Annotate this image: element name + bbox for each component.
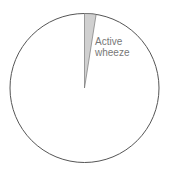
slice-label: Active wheeze	[95, 36, 129, 58]
pie-chart	[0, 0, 170, 175]
slice-label-line1: Active	[95, 36, 129, 47]
slice-label-line2: wheeze	[95, 47, 129, 58]
